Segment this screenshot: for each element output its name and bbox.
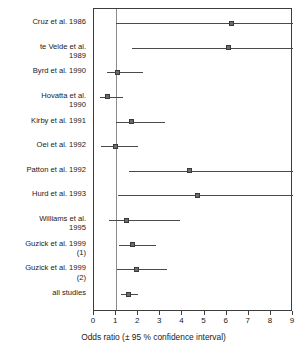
x-axis-tick-label: 0 xyxy=(85,316,101,326)
x-axis-tick-label: 6 xyxy=(218,316,234,326)
x-axis: 0123456789 xyxy=(93,311,292,333)
x-axis-tick xyxy=(115,311,116,315)
confidence-interval-whisker xyxy=(117,269,167,270)
study-label: Guzick et al. 1999 (1) xyxy=(0,239,86,257)
forest-row xyxy=(94,72,291,73)
x-axis-tick-label: 4 xyxy=(173,316,189,326)
study-label-column: Cruz et al. 1986te Velde et al. 1989Byrd… xyxy=(0,0,90,310)
effect-estimate-marker xyxy=(229,21,234,26)
x-axis-tick xyxy=(270,311,271,315)
forest-plot-figure: Cruz et al. 1986te Velde et al. 1989Byrd… xyxy=(0,0,307,350)
forest-row xyxy=(94,48,291,49)
forest-row xyxy=(94,220,291,221)
confidence-interval-whisker xyxy=(132,48,293,49)
confidence-interval-whisker xyxy=(116,122,165,123)
effect-estimate-marker xyxy=(105,94,110,99)
study-label: Kirby et al. 1991 xyxy=(0,116,86,125)
forest-row xyxy=(94,97,291,98)
x-axis-tick-label: 5 xyxy=(196,316,212,326)
x-axis-tick xyxy=(292,311,293,315)
effect-estimate-marker xyxy=(226,45,231,50)
effect-estimate-marker xyxy=(130,242,135,247)
study-label: Hovatta et al. 1990 xyxy=(0,91,86,109)
forest-row xyxy=(94,122,291,123)
forest-row xyxy=(94,171,291,172)
effect-estimate-marker xyxy=(134,267,139,272)
study-label: Byrd et al. 1990 xyxy=(0,66,86,75)
confidence-interval-whisker xyxy=(107,72,142,73)
x-axis-tick xyxy=(159,311,160,315)
study-label: Oei et al. 1992 xyxy=(0,140,86,149)
study-label: Patton et al. 1992 xyxy=(0,165,86,174)
confidence-interval-whisker xyxy=(129,171,293,172)
confidence-interval-whisker xyxy=(118,195,293,196)
study-label: Guzick et al. 1999 (2) xyxy=(0,263,86,281)
x-axis-title: Odds ratio (± 95 % confidence interval) xyxy=(0,332,307,343)
confidence-interval-whisker xyxy=(100,97,123,98)
effect-estimate-marker xyxy=(115,70,120,75)
confidence-interval-whisker xyxy=(109,220,180,221)
study-label: te Velde et al. 1989 xyxy=(0,42,86,60)
reference-line-icon xyxy=(116,9,117,310)
study-label: Cruz et al. 1986 xyxy=(0,17,86,26)
effect-estimate-marker xyxy=(187,168,192,173)
x-axis-tick-label: 7 xyxy=(240,316,256,326)
study-label: Williams et al. 1995 xyxy=(0,214,86,232)
effect-estimate-marker xyxy=(113,144,118,149)
x-axis-tick-label: 8 xyxy=(262,316,278,326)
x-axis-tick-label: 9 xyxy=(284,316,300,326)
forest-row xyxy=(94,195,291,196)
confidence-interval-whisker xyxy=(101,146,138,147)
effect-estimate-marker xyxy=(124,218,129,223)
x-axis-tick xyxy=(204,311,205,315)
x-axis-tick-label: 1 xyxy=(107,316,123,326)
x-axis-tick xyxy=(226,311,227,315)
forest-row xyxy=(94,269,291,270)
x-axis-tick xyxy=(93,311,94,315)
x-axis-tick-label: 2 xyxy=(129,316,145,326)
effect-estimate-marker xyxy=(195,193,200,198)
x-axis-tick xyxy=(181,311,182,315)
effect-estimate-marker xyxy=(126,292,131,297)
x-axis-tick-label: 3 xyxy=(151,316,167,326)
forest-row xyxy=(94,245,291,246)
study-label: all studies xyxy=(0,288,86,297)
x-axis-tick xyxy=(248,311,249,315)
x-axis-tick xyxy=(137,311,138,315)
forest-row xyxy=(94,146,291,147)
study-label: Hurd et al. 1993 xyxy=(0,189,86,198)
forest-row xyxy=(94,23,291,24)
confidence-interval-whisker xyxy=(119,245,155,246)
effect-estimate-marker xyxy=(129,119,134,124)
forest-row xyxy=(94,294,291,295)
confidence-interval-whisker xyxy=(116,23,293,24)
plot-area xyxy=(93,8,292,311)
